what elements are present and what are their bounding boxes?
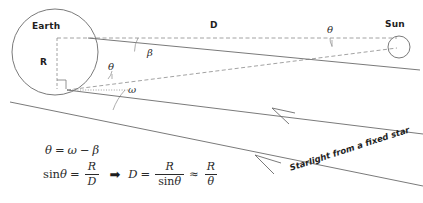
- formula-sin-1: sin: [43, 167, 60, 181]
- fraction-2-numerator: R: [162, 161, 176, 174]
- fraction-R-over-theta: R θ: [204, 161, 218, 187]
- fraction-1-numerator: R: [85, 161, 99, 174]
- theta-earth-angle-arc: [108, 71, 112, 79]
- formula-line-1: θ = ω − β: [43, 143, 220, 157]
- fraction-2-den-theta: θ: [174, 175, 181, 188]
- formula-sin-theta-1: θ: [60, 167, 67, 181]
- formula-omega: ω: [68, 143, 77, 157]
- formula-beta: β: [93, 143, 100, 157]
- sun-circle: [388, 36, 410, 58]
- formula-block: θ = ω − β sin θ = R D ➡ D = R sinθ ≈ R θ: [43, 143, 220, 187]
- fraction-2-denominator: sinθ: [155, 174, 184, 188]
- starlight-ray-upper: [67, 90, 423, 134]
- theta-sun-angle-label: θ: [327, 25, 333, 35]
- formula-equals: =: [52, 143, 68, 157]
- sun-label: Sun: [385, 20, 405, 29]
- fraction-2-den-sin: sin: [158, 175, 174, 188]
- fraction-3-denominator: θ: [205, 174, 218, 188]
- radius-label-R: R: [40, 58, 47, 67]
- beta-angle-label: β: [147, 48, 153, 58]
- formula-line-2: sin θ = R D ➡ D = R sinθ ≈ R θ: [43, 161, 220, 187]
- theta-earth-angle-label: θ: [108, 62, 114, 72]
- fraction-1-denominator: D: [85, 174, 100, 188]
- starlight-arrowhead-lower: [255, 155, 281, 174]
- earth-to-sun-sightline: [67, 48, 397, 90]
- fraction-R-over-D: R D: [85, 161, 100, 187]
- fraction-3-numerator: R: [204, 161, 218, 174]
- formula-D: D: [128, 167, 137, 181]
- fraction-R-over-sin-theta: R sinθ: [155, 161, 184, 187]
- formula-minus: −: [77, 143, 93, 157]
- formula-equals-2: =: [67, 167, 83, 181]
- implies-arrow-icon: ➡: [109, 168, 120, 181]
- right-angle-marker: [57, 80, 66, 89]
- beta-angle-arc: [135, 38, 139, 52]
- distance-label-D: D: [210, 21, 217, 30]
- beta-reference-line: [88, 38, 420, 70]
- formula-equals-3: =: [138, 167, 154, 181]
- omega-angle-label: ω: [128, 85, 136, 95]
- parallax-diagram: .solid { stroke: #6b6b6b; stroke-width: …: [0, 0, 423, 203]
- omega-angle-arc: [113, 90, 125, 110]
- formula-theta: θ: [45, 143, 52, 157]
- formula-approx: ≈: [186, 167, 202, 181]
- earth-label: Earth: [32, 22, 60, 31]
